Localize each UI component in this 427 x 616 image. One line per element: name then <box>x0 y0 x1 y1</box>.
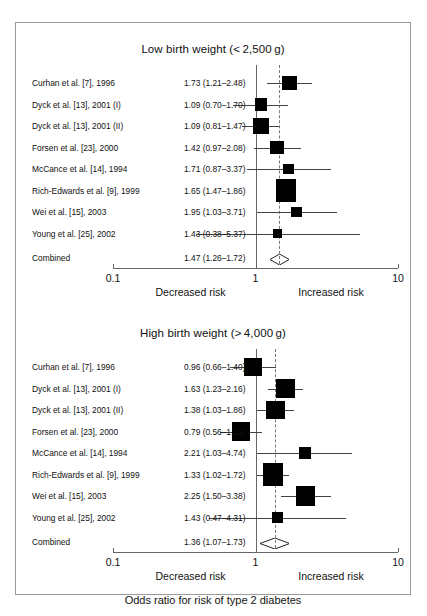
x-axis-tick-label: 1 <box>253 272 259 284</box>
effect-estimate-label: 1.73 (1.21–2.48) <box>184 73 245 93</box>
study-label: Curhan et al. [7], 1996 <box>32 73 115 93</box>
x-axis-tick-label: 1 <box>253 556 259 568</box>
study-label: Forsen et al. [23], 2000 <box>32 422 118 442</box>
study-label: Wei et al. [15], 2003 <box>32 202 106 222</box>
forest-row: Curhan et al. [7], 19960.96 (0.66–1.40) <box>16 357 410 377</box>
forest-row: Curhan et al. [7], 19961.73 (1.21–2.48) <box>16 73 410 93</box>
study-label: Forsen et al. [23], 2000 <box>32 138 118 158</box>
forest-row: Young et al. [25], 20021.43 (0.38–5.37) <box>16 224 410 244</box>
forest-row: Dyck et al. [13], 2001 (I)1.63 (1.23–2.1… <box>16 379 410 399</box>
effect-estimate-label: 2.21 (1.03–4.74) <box>184 443 245 463</box>
study-label: Young et al. [25], 2002 <box>32 508 116 528</box>
decreased-risk-label: Decreased risk <box>155 570 225 582</box>
study-label: Wei et al. [15], 2003 <box>32 486 106 506</box>
forest-row: Wei et al. [15], 20032.25 (1.50–3.38) <box>16 486 410 506</box>
study-label: Dyck et al. [13], 2001 (II) <box>32 116 123 136</box>
effect-estimate-label: 0.96 (0.66–1.40) <box>184 357 245 377</box>
x-axis-tick-label: 10 <box>392 272 404 284</box>
effect-estimate-label: 1.38 (1.03–1.86) <box>184 400 245 420</box>
study-label: Rich-Edwards et al. [9], 1999 <box>32 465 140 485</box>
forest-row: Wei et al. [15], 20031.95 (1.03–3.71) <box>16 202 410 222</box>
forest-row: Rich-Edwards et al. [9], 19991.33 (1.02–… <box>16 465 410 485</box>
forest-row: Forsen et al. [23], 20000.79 (0.56–1.11) <box>16 422 410 442</box>
x-axis-tick-label: 0.1 <box>106 272 121 284</box>
x-axis-line <box>113 268 398 269</box>
forest-row: McCance et al. [14], 19942.21 (1.03–4.74… <box>16 443 410 463</box>
study-label: Curhan et al. [7], 1996 <box>32 357 115 377</box>
x-axis-tick <box>256 548 257 552</box>
forest-row: Young et al. [25], 20021.43 (0.47–4.31) <box>16 508 410 528</box>
decreased-risk-label: Decreased risk <box>155 286 225 298</box>
study-label: Rich-Edwards et al. [9], 1999 <box>32 181 140 201</box>
x-axis-tick-label: 10 <box>392 556 404 568</box>
forest-row: Dyck et al. [13], 2001 (II)1.38 (1.03–1.… <box>16 400 410 420</box>
combined-estimate-label: 1.36 (1.07–1.73) <box>184 537 245 547</box>
effect-estimate-label: 1.33 (1.02–1.72) <box>184 465 245 485</box>
effect-estimate-label: 1.09 (0.70–1.70) <box>184 95 245 115</box>
study-label: Dyck et al. [13], 2001 (I) <box>32 379 121 399</box>
increased-risk-label: Increased risk <box>298 570 363 582</box>
study-label: Dyck et al. [13], 2001 (I) <box>32 95 121 115</box>
study-label: McCance et al. [14], 1994 <box>32 159 127 179</box>
combined-diamond <box>270 254 289 265</box>
effect-estimate-label: 1.43 (0.38–5.37) <box>184 224 245 244</box>
forest-row: Dyck et al. [13], 2001 (I)1.09 (0.70–1.7… <box>16 95 410 115</box>
x-axis-tick <box>113 548 114 552</box>
effect-estimate-label: 1.95 (1.03–3.71) <box>184 202 245 222</box>
effect-estimate-label: 1.65 (1.47–1.86) <box>184 181 245 201</box>
forest-plot-figure: Low birth weight (< 2,500 g) 0.1110Decre… <box>15 22 411 595</box>
footer-axis-label: Odds ratio for risk of type 2 diabetes <box>16 594 410 606</box>
study-label: Dyck et al. [13], 2001 (II) <box>32 400 123 420</box>
effect-estimate-label: 1.71 (0.87–3.37) <box>184 159 245 179</box>
study-label: Young et al. [25], 2002 <box>32 224 116 244</box>
study-label: McCance et al. [14], 1994 <box>32 443 127 463</box>
forest-row: Dyck et al. [13], 2001 (II)1.09 (0.81–1.… <box>16 116 410 136</box>
x-axis-tick <box>398 548 399 552</box>
x-axis-tick <box>113 264 114 268</box>
forest-row: Rich-Edwards et al. [9], 19991.65 (1.47–… <box>16 181 410 201</box>
combined-label: Combined <box>32 537 70 547</box>
panel-high-birth-weight: High birth weight (> 4,000 g) 0.1110Decr… <box>16 311 410 595</box>
panel-low-birth-weight: Low birth weight (< 2,500 g) 0.1110Decre… <box>16 23 410 311</box>
increased-risk-label: Increased risk <box>298 286 363 298</box>
x-axis-tick <box>398 264 399 268</box>
effect-estimate-label: 1.09 (0.81–1.47) <box>184 116 245 136</box>
effect-estimate-label: 0.79 (0.56–1.11) <box>184 422 245 442</box>
x-axis-tick-label: 0.1 <box>106 556 121 568</box>
combined-estimate-label: 1.47 (1.26–1.72) <box>184 253 245 263</box>
effect-estimate-label: 2.25 (1.50–3.38) <box>184 486 245 506</box>
effect-estimate-label: 1.42 (0.97–2.08) <box>184 138 245 158</box>
combined-diamond <box>260 538 290 549</box>
effect-estimate-label: 1.63 (1.23–2.16) <box>184 379 245 399</box>
effect-estimate-label: 1.43 (0.47–4.31) <box>184 508 245 528</box>
x-axis-tick <box>256 264 257 268</box>
x-axis-line <box>113 552 398 553</box>
forest-row: Forsen et al. [23], 20001.42 (0.97–2.08) <box>16 138 410 158</box>
combined-label: Combined <box>32 253 70 263</box>
forest-row: McCance et al. [14], 19941.71 (0.87–3.37… <box>16 159 410 179</box>
